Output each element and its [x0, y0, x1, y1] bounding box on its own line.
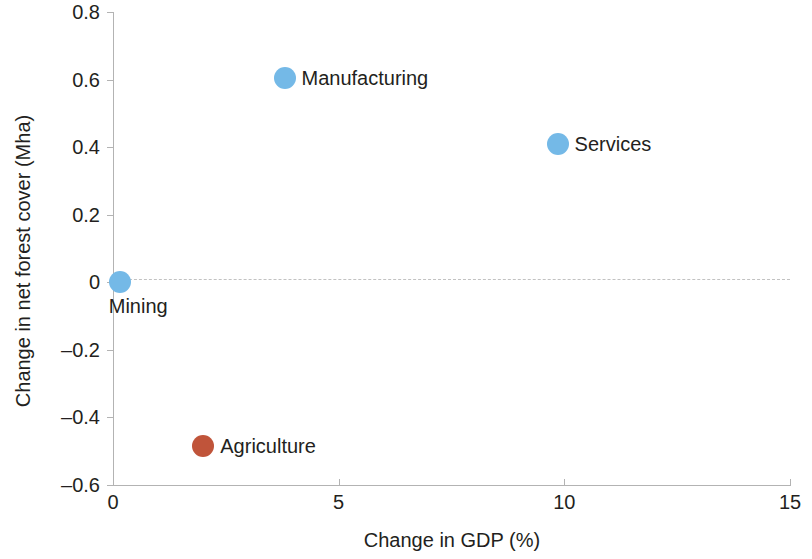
x-axis-spine — [113, 485, 791, 486]
y-axis-tick — [107, 147, 114, 148]
data-point-agriculture[interactable] — [192, 435, 214, 457]
y-axis-tick — [107, 12, 114, 13]
y-axis-tick — [107, 80, 114, 81]
y-axis-tick-label-text: 0.8 — [2, 2, 100, 22]
y-axis-tick-label: 0.8 — [0, 2, 100, 22]
x-axis-tick-label: 15 — [760, 491, 812, 513]
x-axis-tick-label: 10 — [534, 491, 594, 513]
x-axis-tick-label: 5 — [309, 491, 369, 513]
x-axis-tick — [339, 479, 340, 486]
data-point-label-agriculture: Agriculture — [220, 435, 316, 457]
data-point-manufacturing[interactable] — [274, 67, 296, 89]
data-point-label-services: Services — [575, 133, 652, 155]
y-axis-tick — [107, 215, 114, 216]
x-axis-tick — [113, 479, 114, 486]
scatter-chart: 0.80.60.40.20–0.2–0.4–0.6 051015 MiningM… — [0, 0, 812, 559]
y-axis-tick — [107, 417, 114, 418]
data-point-label-manufacturing: Manufacturing — [302, 67, 429, 89]
y-axis-tick — [107, 350, 114, 351]
x-axis-tick — [790, 479, 791, 486]
x-axis-tick — [564, 479, 565, 486]
x-axis-tick-label: 0 — [83, 491, 143, 513]
x-axis-title: Change in GDP (%) — [113, 528, 791, 552]
data-point-mining[interactable] — [109, 271, 131, 293]
data-point-services[interactable] — [547, 133, 569, 155]
zero-reference-line — [114, 279, 790, 280]
data-point-label-mining: Mining — [109, 295, 168, 317]
y-axis-spine — [113, 12, 114, 486]
y-axis-title: Change in net forest cover (Mha) — [11, 24, 35, 498]
